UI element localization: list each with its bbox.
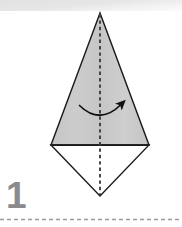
step-number-label: 1 bbox=[6, 178, 36, 214]
origami-step-page: 1 bbox=[0, 0, 182, 227]
